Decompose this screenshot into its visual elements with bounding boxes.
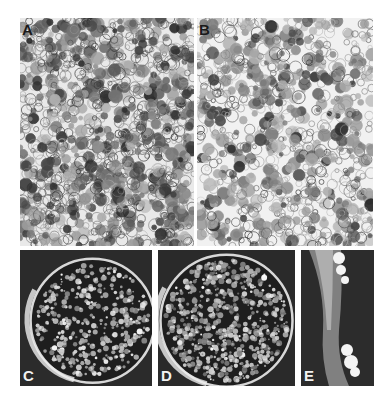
panel-b-image xyxy=(197,18,373,246)
panel-d-petri-dish: D xyxy=(158,250,295,386)
panel-e-explant: E xyxy=(301,250,374,386)
panel-c-petri-dish: C xyxy=(20,250,152,386)
panel-e-image xyxy=(301,250,374,386)
panel-b-micrograph: B xyxy=(197,18,373,246)
panel-d-label: D xyxy=(161,368,172,383)
panel-a-image xyxy=(20,18,194,246)
panel-c-image xyxy=(20,250,152,386)
panel-b-label: B xyxy=(199,22,210,37)
panel-d-image xyxy=(158,250,295,386)
panel-e-label: E xyxy=(304,368,314,383)
panel-c-label: C xyxy=(23,368,34,383)
panel-a-micrograph: A xyxy=(20,18,194,246)
panel-a-label: A xyxy=(22,22,33,37)
